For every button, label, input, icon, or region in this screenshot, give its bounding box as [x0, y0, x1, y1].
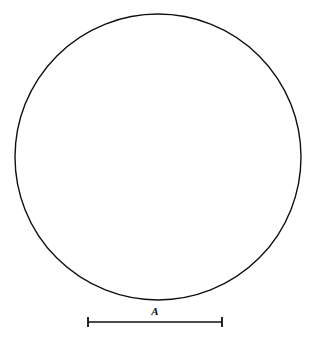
- disc-fill: [15, 14, 301, 300]
- figure-root: A: [0, 0, 317, 341]
- checkerboard-figure: A: [0, 0, 317, 341]
- scale-bar-label: A: [150, 305, 158, 317]
- checkerboard-disc: [15, 14, 301, 300]
